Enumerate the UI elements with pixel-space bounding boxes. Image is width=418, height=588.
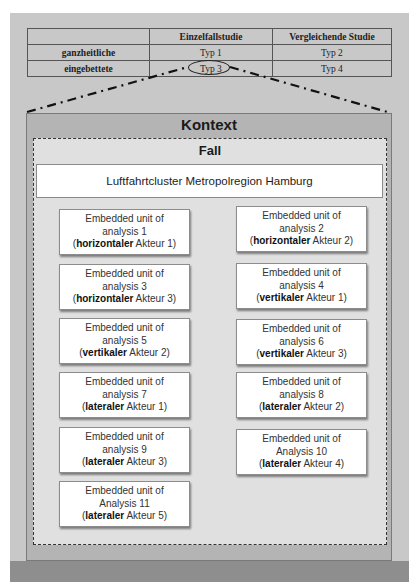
unit-actor: (lateraler Akteur 3) xyxy=(82,456,167,469)
unit-line-1: Embedded unit of xyxy=(262,433,340,446)
unit-role: horizontaler xyxy=(76,238,133,249)
unit-actor-label: Akteur 2 xyxy=(303,401,340,412)
unit-line-2: analysis 8 xyxy=(279,389,323,402)
unit-line-2: analysis 1 xyxy=(102,226,146,239)
embedded-unit-8: Embedded unit of analysis 8 (lateraler A… xyxy=(236,372,367,418)
unit-line-2: analysis 9 xyxy=(102,444,146,457)
unit-role: horizontaler xyxy=(76,293,133,304)
unit-actor-label: Akteur 3 xyxy=(306,348,343,359)
embedded-unit-5: Embedded unit of analysis 5 (vertikaler … xyxy=(59,318,190,364)
unit-actor-label: Akteur 3 xyxy=(126,456,163,467)
unit-actor-label: Akteur 4 xyxy=(303,458,340,469)
unit-line-2: analysis 6 xyxy=(279,336,323,349)
unit-actor: (horizontaler Akteur 1) xyxy=(73,238,176,251)
unit-line-1: Embedded unit of xyxy=(85,431,163,444)
unit-role: lateraler xyxy=(85,510,124,521)
embedded-unit-9: Embedded unit of analysis 9 (lateraler A… xyxy=(59,427,190,473)
unit-actor-label: Akteur 2 xyxy=(129,347,166,358)
embedded-unit-2: Embedded unit of analysis 2 (horizontale… xyxy=(236,206,367,252)
unit-role: vertikaler xyxy=(260,292,304,303)
unit-actor-label: Akteur 1 xyxy=(126,401,163,412)
unit-line-2: analysis 3 xyxy=(102,281,146,294)
unit-actor: (lateraler Akteur 2) xyxy=(259,401,344,414)
unit-line-2: analysis 7 xyxy=(102,389,146,402)
unit-actor-label: Akteur 5 xyxy=(126,510,163,521)
unit-actor: (lateraler Akteur 5) xyxy=(82,510,167,523)
unit-actor: (vertikaler Akteur 2) xyxy=(79,347,170,360)
unit-actor-label: Akteur 1 xyxy=(306,292,343,303)
unit-line-1: Embedded unit of xyxy=(262,210,340,223)
unit-line-1: Embedded unit of xyxy=(85,485,163,498)
unit-line-1: Embedded unit of xyxy=(85,322,163,335)
unit-role: horizontaler xyxy=(253,235,310,246)
unit-line-1: Embedded unit of xyxy=(262,323,340,336)
unit-actor: (horizontaler Akteur 3) xyxy=(73,293,176,306)
right-dash-dot-line xyxy=(230,67,391,113)
unit-line-1: Embedded unit of xyxy=(85,376,163,389)
cluster-label: Luftfahrtcluster Metropolregion Hamburg xyxy=(106,175,312,187)
unit-line-2: analysis 5 xyxy=(102,335,146,348)
embedded-unit-6: Embedded unit of analysis 6 (vertikaler … xyxy=(236,319,367,365)
unit-role: vertikaler xyxy=(260,348,304,359)
unit-line-1: Embedded unit of xyxy=(85,213,163,226)
embedded-unit-11: Embedded unit of Analysis 11 (lateraler … xyxy=(59,481,190,527)
unit-actor: (lateraler Akteur 1) xyxy=(82,401,167,414)
unit-line-2: analysis 2 xyxy=(279,223,323,236)
unit-role: lateraler xyxy=(85,456,124,467)
unit-line-1: Embedded unit of xyxy=(85,268,163,281)
unit-line-2: Analysis 10 xyxy=(276,446,327,459)
unit-line-2: analysis 4 xyxy=(279,280,323,293)
unit-role: lateraler xyxy=(85,401,124,412)
unit-actor-label: Akteur 3 xyxy=(136,293,173,304)
unit-role: lateraler xyxy=(262,401,301,412)
fall-title: Fall xyxy=(34,143,386,158)
embedded-unit-3: Embedded unit of analysis 3 (horizontale… xyxy=(59,264,190,310)
unit-actor-label: Akteur 2 xyxy=(313,235,350,246)
unit-role: lateraler xyxy=(262,458,301,469)
unit-actor: (vertikaler Akteur 1) xyxy=(256,292,347,305)
unit-actor: (horizontaler Akteur 2) xyxy=(250,235,353,248)
embedded-unit-10: Embedded unit of Analysis 10 (lateraler … xyxy=(236,429,367,475)
kontext-title: Kontext xyxy=(27,116,391,133)
unit-actor-label: Akteur 1 xyxy=(136,238,173,249)
embedded-unit-4: Embedded unit of analysis 4 (vertikaler … xyxy=(236,263,367,309)
embedded-unit-7: Embedded unit of analysis 7 (lateraler A… xyxy=(59,372,190,418)
unit-line-1: Embedded unit of xyxy=(262,267,340,280)
unit-actor: (lateraler Akteur 4) xyxy=(259,458,344,471)
cluster-box: Luftfahrtcluster Metropolregion Hamburg xyxy=(36,164,383,198)
unit-line-1: Embedded unit of xyxy=(262,376,340,389)
unit-actor: (vertikaler Akteur 3) xyxy=(256,348,347,361)
embedded-unit-1: Embedded unit of analysis 1 (horizontale… xyxy=(59,209,190,255)
unit-line-2: Analysis 11 xyxy=(99,498,149,511)
left-dash-dot-line xyxy=(27,67,188,112)
unit-role: vertikaler xyxy=(83,347,127,358)
